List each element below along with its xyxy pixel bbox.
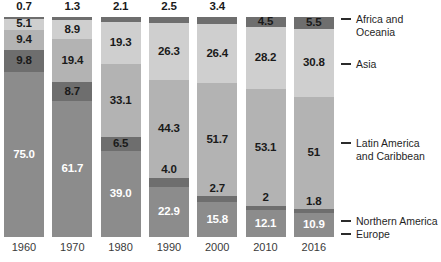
bar-column[interactable]: 3.426.451.72.715.82000 <box>197 0 237 262</box>
bar-top-value: 1.3 <box>52 1 92 13</box>
bar-segment[interactable]: 4.5 <box>246 17 286 27</box>
bar-segment[interactable]: 15.8 <box>197 202 237 237</box>
bar-segment-label: 4.0 <box>149 164 189 176</box>
bar-top-value: 2.5 <box>149 1 189 13</box>
stacked-bar: 26.451.72.715.8 <box>197 17 237 237</box>
bar-segment-label: 44.3 <box>158 123 180 135</box>
legend-label: Asia <box>356 58 376 71</box>
chart-legend: Africa and OceaniaAsiaLatin America and … <box>341 0 441 262</box>
bar-segment-label: 22.9 <box>158 206 180 218</box>
bar-top-value: 0.7 <box>4 1 44 13</box>
x-axis-label: 1960 <box>0 242 48 253</box>
bar-top-value: 3.4 <box>197 1 237 13</box>
bar-segment-label: 53.1 <box>255 142 277 154</box>
bar-segment[interactable]: 28.2 <box>246 27 286 89</box>
x-axis-label: 1980 <box>97 242 145 253</box>
bar-segment[interactable]: 5.1 <box>4 19 44 30</box>
bar-segment[interactable]: 9.4 <box>4 30 44 51</box>
bar-segment-label: 61.7 <box>62 163 84 175</box>
bar-segment[interactable]: 4.0 <box>149 178 189 187</box>
bar-column[interactable]: 0.75.19.49.875.01960 <box>4 0 44 262</box>
legend-label: Northern America <box>356 215 438 228</box>
bar-segment-label: 26.4 <box>206 48 228 60</box>
legend-dash-icon <box>341 233 351 235</box>
stacked-bar: 5.19.49.875.0 <box>4 17 44 237</box>
bar-segment[interactable]: 12.1 <box>246 210 286 237</box>
bar-segment-label: 15.8 <box>206 214 228 226</box>
stacked-bar: 8.919.48.761.7 <box>52 17 92 237</box>
bar-segment-label: 9.4 <box>16 34 31 46</box>
bar-segment-label: 30.8 <box>303 57 325 69</box>
bar-segment-label: 51 <box>308 147 320 159</box>
stacked-bar-chart: 0.75.19.49.875.019601.38.919.48.761.7197… <box>0 0 441 262</box>
bar-segment[interactable]: 10.9 <box>294 213 334 237</box>
bar-segment-label: 6.5 <box>113 138 128 150</box>
bar-segment[interactable]: 30.8 <box>294 29 334 97</box>
bar-segment[interactable] <box>197 17 237 24</box>
bar-segment-label: 39.0 <box>110 188 132 200</box>
legend-item[interactable]: Northern America <box>341 215 438 228</box>
bar-segment[interactable]: 9.8 <box>4 50 44 72</box>
stacked-bar: 5.530.8511.810.9 <box>294 17 334 237</box>
bar-segment-label: 8.9 <box>65 24 80 36</box>
bar-segment[interactable]: 75.0 <box>4 72 44 237</box>
legend-dash-icon <box>341 142 351 144</box>
bar-segment-label: 8.7 <box>65 86 80 98</box>
x-axis-label: 2000 <box>193 242 241 253</box>
bar-segment-label: 19.4 <box>62 55 84 67</box>
bar-segment[interactable]: 51.7 <box>197 83 237 197</box>
bar-segment-label: 9.8 <box>16 55 31 67</box>
bar-top-value: 2.1 <box>101 1 141 13</box>
bar-segment-label: 2.7 <box>197 183 237 195</box>
legend-item[interactable]: Africa and Oceania <box>341 13 441 39</box>
bar-segment-label: 5.5 <box>306 17 321 29</box>
bar-segment-label: 4.5 <box>258 17 273 27</box>
x-axis-label: 2010 <box>242 242 290 253</box>
bar-column[interactable]: 5.530.8511.810.92016 <box>294 0 334 262</box>
legend-dash-icon <box>341 63 351 65</box>
bar-segment[interactable]: 6.5 <box>101 137 141 151</box>
bar-segment[interactable]: 39.0 <box>101 151 141 237</box>
bar-column[interactable]: 2.119.333.16.539.01980 <box>101 0 141 262</box>
bar-segment-label: 26.3 <box>158 46 180 58</box>
bar-segment-label: 28.2 <box>255 52 277 64</box>
bar-column[interactable]: 4.528.253.1212.12010 <box>246 0 286 262</box>
legend-label: Latin America and Caribbean <box>356 137 425 163</box>
bar-segment[interactable]: 61.7 <box>52 101 92 237</box>
bar-segment-label: 2 <box>246 192 286 204</box>
bar-segment[interactable]: 19.4 <box>52 39 92 82</box>
legend-dash-icon <box>341 220 351 222</box>
x-axis-label: 1970 <box>48 242 96 253</box>
bar-segment[interactable]: 51 <box>294 97 334 209</box>
legend-label: Africa and Oceania <box>356 13 441 39</box>
x-axis-label: 1990 <box>145 242 193 253</box>
stacked-bar: 26.344.34.022.9 <box>149 17 189 237</box>
stacked-bar: 19.333.16.539.0 <box>101 17 141 237</box>
plot-area: 0.75.19.49.875.019601.38.919.48.761.7197… <box>0 0 340 262</box>
bar-segment-label: 1.8 <box>294 196 334 208</box>
bar-segment[interactable]: 19.3 <box>101 22 141 64</box>
x-axis-label: 2016 <box>290 242 338 253</box>
bar-segment-label: 33.1 <box>110 95 132 107</box>
bar-segment-label: 75.0 <box>13 149 35 161</box>
bar-segment-label: 10.9 <box>303 219 325 231</box>
bar-segment[interactable]: 22.9 <box>149 187 189 237</box>
bar-segment-label: 5.1 <box>16 19 31 30</box>
legend-item[interactable]: Europe <box>341 228 390 241</box>
legend-label: Europe <box>356 228 390 241</box>
bar-segment[interactable]: 26.3 <box>149 23 189 81</box>
bar-segment-label: 51.7 <box>206 134 228 146</box>
bar-segment[interactable]: 26.4 <box>197 24 237 82</box>
bar-segment[interactable]: 5.5 <box>294 17 334 29</box>
bar-segment-label: 12.1 <box>255 218 277 230</box>
bar-segment[interactable]: 8.7 <box>52 82 92 101</box>
bar-segment[interactable]: 33.1 <box>101 64 141 137</box>
stacked-bar: 4.528.253.1212.1 <box>246 17 286 237</box>
bar-segment[interactable]: 8.9 <box>52 20 92 40</box>
bar-column[interactable]: 1.38.919.48.761.71970 <box>52 0 92 262</box>
legend-item[interactable]: Latin America and Caribbean <box>341 137 425 163</box>
legend-item[interactable]: Asia <box>341 58 376 71</box>
bar-column[interactable]: 2.526.344.34.022.91990 <box>149 0 189 262</box>
bar-segment[interactable]: 53.1 <box>246 89 286 206</box>
legend-dash-icon <box>341 18 351 20</box>
